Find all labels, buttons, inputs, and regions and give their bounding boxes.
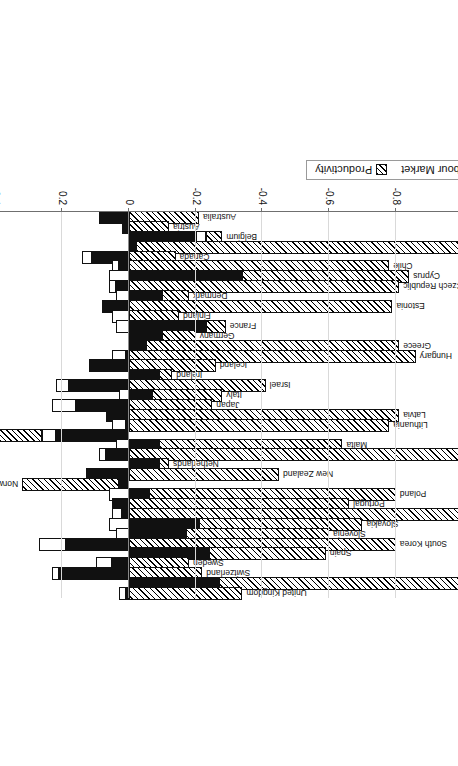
x-axis-tick-label: -0.4 bbox=[257, 188, 268, 205]
x-axis-tick-label: -0.2 bbox=[190, 188, 201, 205]
legend-item-productivity: Productivity bbox=[315, 164, 387, 176]
bar-segment-labour-market bbox=[119, 587, 126, 600]
gridline bbox=[261, 212, 262, 598]
plot-area: AustraliaAustriaBelgiumBulgariaCanadaChi… bbox=[0, 212, 458, 598]
diagonal-hatch-swatch-icon bbox=[376, 165, 387, 176]
category-label: United Kingdom bbox=[246, 585, 306, 601]
zero-line bbox=[128, 212, 129, 598]
chart-legend: Demographics Labour Market Productivity bbox=[306, 160, 458, 180]
gridline bbox=[395, 212, 396, 598]
legend-label-productivity: Productivity bbox=[315, 164, 372, 176]
bar-row: United Kingdom bbox=[0, 585, 458, 601]
gridline bbox=[328, 212, 329, 598]
chart-surface: AustraliaAustriaBelgiumBulgariaCanadaChi… bbox=[0, 154, 458, 612]
x-axis-tick-label: 0.2 bbox=[57, 191, 68, 205]
x-axis-tick-label: -0.6 bbox=[324, 188, 335, 205]
bar-series-container: AustraliaAustriaBelgiumBulgariaCanadaChi… bbox=[0, 212, 458, 598]
bar-segment-productivity bbox=[129, 587, 242, 600]
x-axis-line bbox=[0, 211, 458, 212]
gridline bbox=[195, 212, 196, 598]
x-axis-tick-label: -0.8 bbox=[390, 188, 401, 205]
x-axis-tick-label: 0 bbox=[123, 199, 134, 205]
x-axis-tick-label: 0.4 bbox=[0, 191, 1, 205]
legend-label-labour-market: Labour Market bbox=[401, 164, 458, 176]
gridline bbox=[61, 212, 62, 598]
legend-item-labour-market: Labour Market bbox=[401, 164, 458, 176]
chart-figure: AustraliaAustriaBelgiumBulgariaCanadaChi… bbox=[0, 154, 458, 612]
